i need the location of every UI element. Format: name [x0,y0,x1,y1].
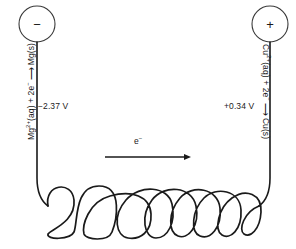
right-ion-species: Cu [261,44,271,55]
left-ion-species: Mg [26,128,36,140]
right-product: Cu(s) [261,118,271,139]
right-plus-sign: + [261,80,271,85]
left-ion-state: (aq) [26,105,36,121]
left-product: Mg(s) [26,43,36,65]
negative-terminal: − [19,6,55,42]
coil-resistor [48,186,261,239]
half-reaction-label-right: Cu2+(aq) + 2e− ⟶ Cu(s) [261,44,271,139]
minus-icon: − [33,17,41,32]
right-electrons: 2e [261,88,271,98]
voltage-label-right: +0.34 V [224,101,254,111]
voltage-label-left: −2.37 V [38,101,68,111]
electron-symbol-charge: − [139,135,143,141]
left-plus-sign: + [26,98,36,103]
left-ion-charge: 2+ [25,121,31,128]
galvanic-cell-diagram: − + Mg2+(aq) + 2e− ⟶ Mg(s) Cu2+(aq) + 2e… [0,0,296,249]
electron-flow-label: e− [134,136,142,146]
left-electrons: 2e [26,86,36,96]
left-wire [37,42,48,206]
right-ion-state: (aq) [261,62,271,78]
electron-arrow-head [184,154,191,160]
plus-icon: + [266,17,274,32]
left-reaction-arrow: ⟶ [26,68,36,80]
left-electron-charge: − [25,82,31,86]
electron-flow-arrow [105,154,191,160]
diagram-canvas: − + [0,0,296,249]
right-electron-charge: − [266,97,272,101]
positive-terminal: + [252,6,288,42]
right-reaction-arrow: ⟶ [261,103,271,115]
half-reaction-label-left: Mg2+(aq) + 2e− ⟶ Mg(s) [26,43,36,140]
